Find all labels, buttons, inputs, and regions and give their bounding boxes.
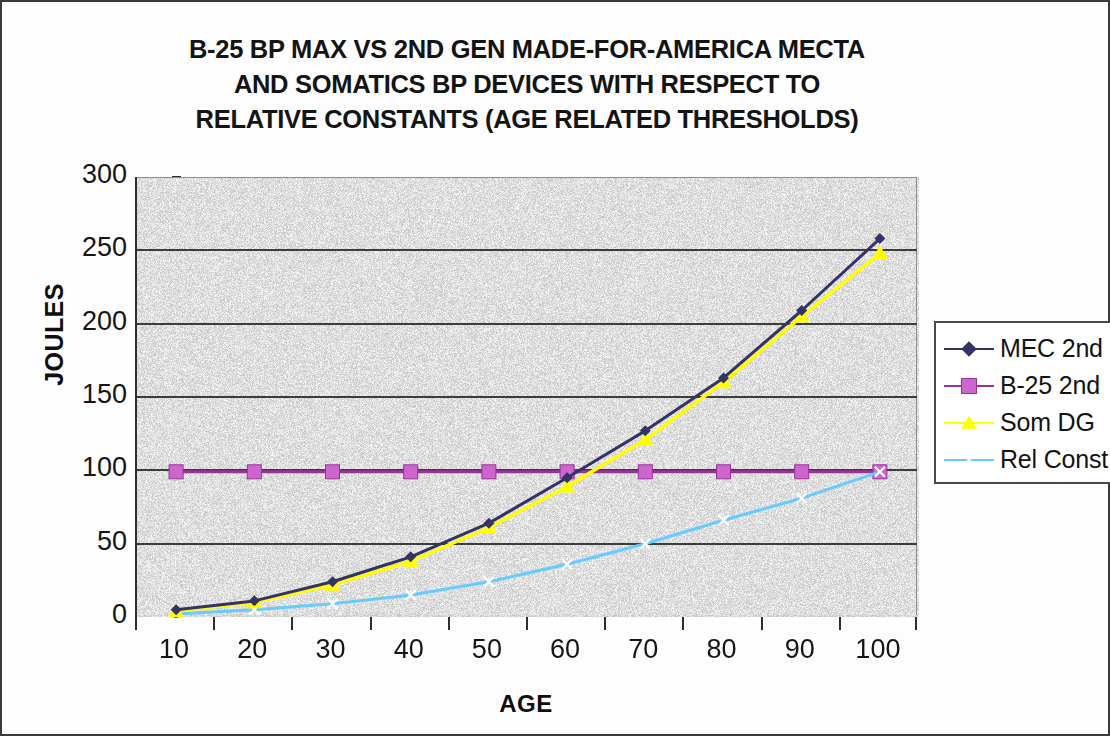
x-marker-icon: × [964, 451, 973, 467]
chart-title: B-25 BP MAX VS 2ND GEN MADE-FOR-AMERICA … [62, 32, 992, 137]
legend-swatch [944, 339, 994, 359]
x-axis-labels: 102030405060708090100 [135, 634, 917, 670]
data-point-marker [717, 465, 731, 479]
x-axis-title: AGE [135, 690, 917, 718]
x-axis-tick-mark [761, 617, 763, 630]
x-axis-ticks [135, 617, 917, 631]
legend-item: MEC 2nd [936, 330, 1110, 367]
data-point-marker [795, 465, 809, 479]
data-point-marker [169, 465, 183, 479]
legend: MEC 2ndB-25 2ndSom DG×Rel Const [934, 321, 1110, 484]
x-axis-tick-label: 60 [550, 634, 580, 665]
x-axis-tick-mark [526, 617, 528, 630]
data-point-marker [247, 465, 261, 479]
series-b-25-2nd [169, 465, 887, 479]
x-axis-tick-label: 40 [394, 634, 424, 665]
data-point-marker [872, 245, 888, 259]
x-axis-tick-mark [213, 617, 215, 630]
chart-title-line-2: AND SOMATICS BP DEVICES WITH RESPECT TO [62, 67, 992, 102]
x-axis-tick-mark [370, 617, 372, 630]
x-axis-tick-mark [915, 617, 917, 630]
x-axis-tick-label: 80 [706, 634, 736, 665]
chart-title-line-3: RELATIVE CONSTANTS (AGE RELATED THRESHOL… [62, 102, 992, 137]
x-axis-tick-label: 90 [785, 634, 815, 665]
x-axis-tick-label: 20 [237, 634, 267, 665]
chart-title-line-1: B-25 BP MAX VS 2ND GEN MADE-FOR-AMERICA … [62, 32, 992, 67]
series-line [176, 253, 880, 611]
y-axis-tick-label: 0 [55, 599, 127, 630]
legend-label: Som DG [1000, 408, 1095, 437]
data-point-marker [326, 465, 340, 479]
x-axis-tick-label: 50 [472, 634, 502, 665]
y-axis-tick-label: 200 [55, 306, 127, 337]
series-som-dg [168, 245, 888, 617]
legend-swatch [944, 376, 994, 396]
y-axis-tick-label: 300 [55, 159, 127, 190]
series-line [176, 239, 880, 610]
y-axis-tick-label: 50 [55, 526, 127, 557]
legend-label: B-25 2nd [1000, 371, 1100, 400]
plot-area [135, 177, 917, 617]
x-axis-tick-mark [291, 617, 293, 630]
legend-label: Rel Const [1000, 445, 1108, 474]
y-axis-tick-label: 150 [55, 379, 127, 410]
data-point-marker [404, 465, 418, 479]
x-axis-tick-mark [839, 617, 841, 630]
y-axis-tick-label: 250 [55, 232, 127, 263]
legend-item: B-25 2nd [936, 367, 1110, 404]
chart-page: B-25 BP MAX VS 2ND GEN MADE-FOR-AMERICA … [0, 0, 1110, 736]
x-axis-tick-label: 30 [315, 634, 345, 665]
y-axis-ticks: 050100150200250300 [47, 177, 127, 617]
x-axis-tick-mark [135, 617, 137, 630]
data-point-marker [638, 465, 652, 479]
x-axis-tick-label: 100 [855, 634, 900, 665]
x-axis-tick-label: 10 [159, 634, 189, 665]
legend-item: Som DG [936, 404, 1110, 441]
legend-swatch: × [944, 450, 994, 470]
triangle-marker-icon [961, 415, 977, 428]
legend-item: ×Rel Const [936, 441, 1110, 478]
series-plot [137, 177, 919, 617]
x-axis-tick-label: 70 [628, 634, 658, 665]
data-point-marker [482, 465, 496, 479]
x-axis-tick-mark [682, 617, 684, 630]
diamond-marker-icon [961, 341, 977, 357]
legend-swatch [944, 413, 994, 433]
x-axis-tick-mark [604, 617, 606, 630]
series-mec-2nd [171, 233, 886, 615]
x-axis-tick-mark [448, 617, 450, 630]
legend-label: MEC 2nd [1000, 334, 1103, 363]
y-axis-tick-label: 100 [55, 452, 127, 483]
square-marker-icon [961, 378, 977, 394]
